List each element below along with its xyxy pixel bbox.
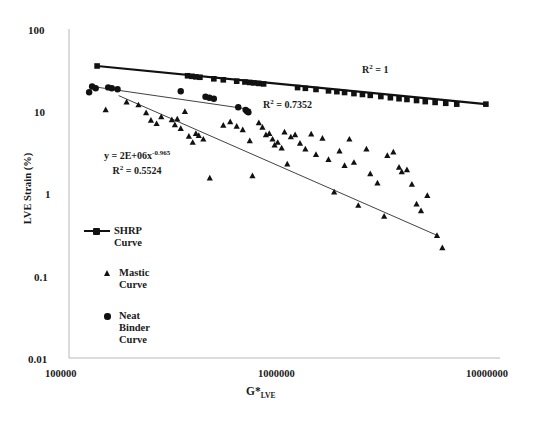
data-point bbox=[432, 100, 438, 106]
shrp-fit-r2: R2 = 1 bbox=[362, 63, 388, 75]
legend-label-line2: Curve bbox=[114, 237, 142, 248]
data-point bbox=[367, 170, 373, 176]
legend-label-line1: Neat bbox=[119, 310, 140, 321]
data-point bbox=[284, 161, 290, 167]
data-point bbox=[390, 149, 396, 155]
chart-figure: 100 10 1 0.1 0.01 100000 1000000 1000000… bbox=[0, 0, 547, 431]
data-point bbox=[409, 181, 415, 187]
data-point bbox=[242, 79, 248, 85]
y-axis-label: LVE Strain (%) bbox=[22, 129, 33, 249]
x-axis-tick-10000000: 10000000 bbox=[466, 368, 508, 379]
data-point bbox=[249, 173, 255, 179]
legend-marker-triangle-icon bbox=[101, 267, 115, 279]
data-point bbox=[374, 180, 380, 186]
legend-item-mastic-curve[interactable]: Mastic Curve bbox=[101, 267, 149, 291]
data-point bbox=[413, 201, 419, 207]
legend-item-neat-binder-curve[interactable]: Neat Binder Curve bbox=[101, 310, 150, 346]
data-point bbox=[342, 90, 348, 96]
data-point bbox=[336, 148, 342, 154]
legend-label-line3: Curve bbox=[119, 334, 147, 345]
data-point bbox=[245, 109, 251, 115]
data-point bbox=[404, 97, 410, 103]
data-point bbox=[182, 108, 188, 114]
r2-value: = 1 bbox=[373, 64, 389, 75]
data-point bbox=[414, 98, 420, 104]
data-point bbox=[434, 232, 440, 238]
data-point bbox=[319, 135, 325, 141]
data-point bbox=[186, 133, 192, 139]
data-point bbox=[443, 100, 449, 106]
data-point bbox=[178, 88, 184, 94]
data-point bbox=[334, 89, 340, 95]
x-axis-label-main: G* bbox=[246, 385, 261, 397]
data-point bbox=[148, 117, 154, 123]
data-point bbox=[178, 125, 184, 131]
data-point bbox=[308, 131, 314, 137]
data-point bbox=[234, 78, 240, 84]
data-point bbox=[227, 118, 233, 124]
data-point bbox=[360, 92, 366, 98]
legend-label-line1: Mastic bbox=[119, 267, 149, 278]
data-point bbox=[303, 86, 309, 92]
y-axis-tick-0-01: 0.01 bbox=[28, 353, 47, 365]
data-point bbox=[454, 101, 460, 107]
points-neat-binder-curve bbox=[86, 83, 252, 115]
data-point bbox=[424, 192, 430, 198]
legend-label-neat-binder: Neat Binder Curve bbox=[115, 310, 150, 346]
data-point bbox=[346, 136, 352, 142]
y-axis-tick-1: 1 bbox=[45, 188, 51, 200]
data-point bbox=[381, 213, 387, 219]
equation-exponent: -0.965 bbox=[152, 149, 170, 157]
data-point bbox=[422, 99, 428, 105]
axis-lines bbox=[69, 29, 500, 358]
x-axis-tick-100000: 100000 bbox=[45, 368, 77, 379]
data-point bbox=[378, 94, 384, 100]
data-point bbox=[326, 88, 332, 94]
data-point bbox=[86, 89, 92, 95]
data-point bbox=[388, 95, 394, 101]
data-point bbox=[143, 110, 149, 116]
data-point bbox=[220, 122, 226, 128]
data-point bbox=[261, 81, 267, 87]
data-point bbox=[169, 117, 175, 123]
data-point bbox=[325, 156, 331, 162]
data-point bbox=[190, 139, 196, 145]
data-point bbox=[114, 86, 120, 92]
data-point bbox=[367, 93, 373, 99]
data-point bbox=[396, 96, 402, 102]
y-axis-tick-10: 10 bbox=[34, 106, 45, 118]
data-point bbox=[313, 87, 319, 93]
data-point bbox=[351, 91, 357, 97]
plot-canvas bbox=[0, 0, 547, 431]
data-point bbox=[235, 104, 241, 110]
legend-marker-circle-icon bbox=[101, 310, 115, 322]
data-point bbox=[240, 126, 246, 132]
data-point bbox=[103, 106, 109, 112]
y-axis-tick-100: 100 bbox=[28, 24, 45, 36]
data-point bbox=[207, 175, 213, 181]
mastic-fit-r2: R2 = 0.5524 bbox=[104, 162, 170, 177]
legend-item-shrp-curve[interactable]: SHRP Curve bbox=[84, 225, 142, 249]
r2-value: = 0.5524 bbox=[123, 166, 161, 177]
data-point bbox=[234, 123, 240, 129]
data-point bbox=[295, 85, 301, 91]
data-point bbox=[266, 130, 272, 136]
data-point bbox=[158, 114, 164, 120]
data-point bbox=[92, 85, 98, 91]
data-point bbox=[404, 167, 410, 173]
legend-label-line2: Binder bbox=[119, 322, 150, 333]
data-point bbox=[483, 101, 489, 107]
legend-marker-line-square-icon bbox=[84, 225, 110, 237]
data-point bbox=[292, 132, 298, 138]
legend-label-line2: Curve bbox=[119, 279, 147, 290]
equation-base: y = 2E+06x bbox=[104, 150, 152, 161]
data-point bbox=[94, 63, 100, 69]
data-point bbox=[211, 96, 217, 102]
data-point bbox=[302, 146, 308, 152]
data-point bbox=[247, 137, 253, 143]
data-point bbox=[351, 159, 357, 165]
data-point bbox=[221, 77, 227, 83]
data-point bbox=[109, 85, 115, 91]
data-point bbox=[211, 76, 217, 82]
x-axis-tick-1000000: 1000000 bbox=[258, 368, 295, 379]
